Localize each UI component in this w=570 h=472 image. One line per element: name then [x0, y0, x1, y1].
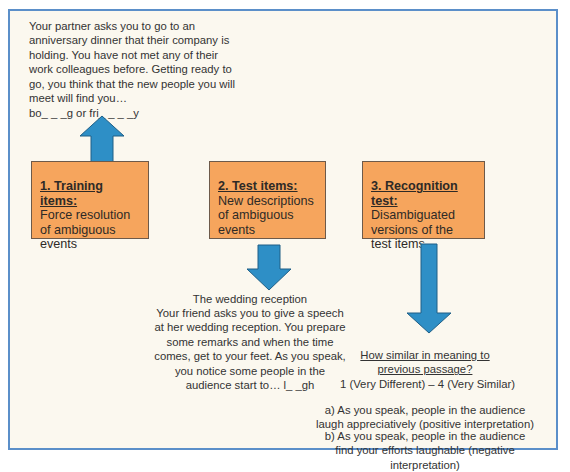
recognition-scale: 1 (Very Different) – 4 (Very Similar) — [325, 377, 530, 391]
test-items-description: New descriptions of ambiguous events — [218, 194, 318, 238]
recognition-option-a: a) As you speak, people in the audience … — [300, 403, 550, 432]
training-items-title: 1. Training items: — [40, 179, 141, 208]
test-items-title: 2. Test items: — [218, 179, 318, 194]
arrow-down-icon — [245, 244, 293, 292]
training-items-description: Force resolution of ambiguous events — [40, 208, 141, 252]
training-example-text: Your partner asks you to go to an annive… — [29, 19, 269, 105]
recognition-test-title: 3. Recognition test: — [371, 179, 477, 208]
recognition-option-b: b) As you speak, people in the audience … — [300, 429, 550, 472]
training-items-box: 1. Training items: Force resolution of a… — [31, 161, 149, 239]
test-example-title: The wedding reception — [140, 292, 360, 306]
arrow-up-icon — [78, 114, 126, 164]
test-items-box: 2. Test items: New descriptions of ambig… — [209, 161, 326, 239]
recognition-test-box: 3. Recognition test: Disambiguated versi… — [362, 161, 485, 239]
recognition-question: How similar in meaning to previous passa… — [345, 348, 505, 377]
arrow-down-long-icon — [405, 243, 453, 335]
